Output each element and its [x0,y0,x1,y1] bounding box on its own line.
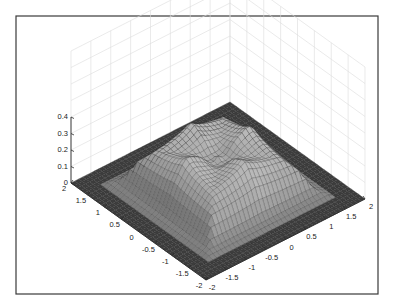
z-tick-label: 0.1 [58,162,68,171]
surface-plot-figure: 00.10.20.30.4 21.510.50-0.5-1-1.5-2 -2-1… [0,0,394,307]
left-axis-tick-label: 1 [96,208,100,217]
right-axis-tick-label: 0 [289,243,293,252]
left-axis-tick-label: -1.5 [176,269,189,278]
left-axis-tick-label: -2 [196,281,203,290]
left-axis-tick-label: -1 [162,257,169,266]
right-axis-tick-label: 0.5 [306,232,316,241]
right-axis-tick-label: -2 [209,283,216,292]
left-axis-tick-label: 1.5 [76,196,86,205]
surface-mesh [71,102,365,280]
z-tick-label: 0.3 [58,129,68,138]
right-axis-tick-label: 2 [369,202,373,211]
left-axis-tick-label: 2 [62,184,66,193]
right-axis-tick-label: -1 [248,263,255,272]
z-tick-label: 0.2 [58,145,68,154]
right-axis-tick-label: -0.5 [265,253,278,262]
z-tick-label: 0.4 [58,112,68,121]
right-axis-tick-label: 1.5 [346,212,356,221]
right-axis-tick-label: 1 [329,222,333,231]
left-axis-tick-label: 0.5 [109,220,119,229]
right-axis-tick-label: -1.5 [225,273,238,282]
left-axis-tick-label: -0.5 [142,245,155,254]
left-axis-tick-label: 0 [129,233,133,242]
